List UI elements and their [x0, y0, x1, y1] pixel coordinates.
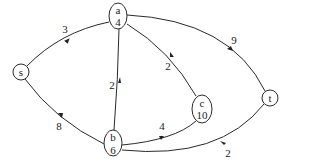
graph-canvas: 3 8 2 2 9 4 2 s a 4 b 6 — [0, 0, 314, 165]
edge-s-b: 8 — [25, 79, 104, 144]
edge-label-b-t: 2 — [225, 147, 231, 159]
edge-b-c: 4 — [122, 120, 196, 145]
node-t: t — [262, 90, 278, 106]
edge-label-b-a: 2 — [109, 79, 115, 91]
edge-label-b-c: 4 — [159, 120, 165, 132]
node-a-label: a — [116, 4, 121, 16]
node-t-label: t — [268, 92, 271, 104]
edge-label-s-b: 8 — [56, 120, 62, 132]
edge-label-s-a: 3 — [62, 23, 68, 35]
node-b-value: 6 — [110, 144, 116, 156]
edge-s-a: 3 — [27, 22, 109, 66]
node-c-value: 10 — [197, 109, 209, 121]
node-s: s — [13, 64, 29, 80]
edge-label-c-a: 2 — [165, 60, 171, 72]
node-s-label: s — [19, 66, 23, 78]
node-b-label: b — [110, 131, 116, 143]
edge-label-a-t: 9 — [231, 34, 237, 46]
node-a-value: 4 — [115, 16, 121, 28]
edge-c-a: 2 — [127, 24, 196, 96]
edge-a-t: 9 — [127, 15, 265, 91]
node-b: b 6 — [104, 130, 122, 156]
edge-b-a: 2 — [109, 29, 121, 130]
node-c: c 10 — [192, 95, 212, 123]
node-c-label: c — [200, 97, 205, 109]
node-a: a 4 — [109, 3, 127, 29]
